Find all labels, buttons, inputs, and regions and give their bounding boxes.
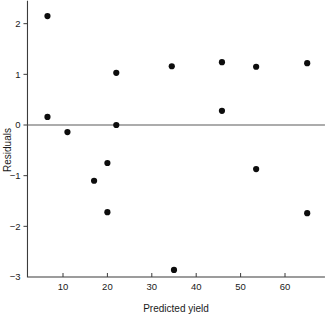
scatter-plot-figure: 102030405060 210−1−2−3 Predicted yield R…: [0, 0, 332, 320]
data-point: [219, 108, 225, 114]
data-points-group: [44, 13, 310, 273]
x-tick-label: 20: [102, 281, 113, 292]
data-point: [44, 114, 50, 120]
data-point: [171, 267, 177, 273]
data-point: [113, 70, 119, 76]
data-point: [64, 129, 70, 135]
y-tick-label: 0: [15, 119, 20, 130]
x-tick-label: 10: [58, 281, 69, 292]
x-tick-label-group: 102030405060: [58, 281, 291, 292]
y-axis-title: Residuals: [2, 128, 13, 172]
x-tick-label: 30: [147, 281, 158, 292]
x-tick-label: 60: [280, 281, 291, 292]
data-point: [44, 13, 50, 19]
data-point: [113, 122, 119, 128]
data-point: [169, 63, 175, 69]
data-point: [304, 210, 310, 216]
data-point: [304, 60, 310, 66]
data-point: [253, 64, 259, 70]
tick-marks-group: [23, 24, 285, 277]
x-axis-title: Predicted yield: [143, 303, 209, 314]
plot-canvas: 102030405060 210−1−2−3 Predicted yield R…: [0, 0, 332, 320]
data-point: [219, 59, 225, 65]
y-tick-label: 2: [15, 18, 20, 29]
y-tick-label: −2: [10, 221, 21, 232]
data-point: [104, 209, 110, 215]
y-tick-label: 1: [15, 69, 20, 80]
data-point: [104, 160, 110, 166]
data-point: [253, 166, 259, 172]
x-tick-label: 40: [191, 281, 202, 292]
y-tick-label: −3: [10, 271, 21, 282]
axes-group: [27, 1, 324, 277]
data-point: [91, 178, 97, 184]
x-tick-label: 50: [235, 281, 246, 292]
axis-spine: [27, 1, 324, 277]
